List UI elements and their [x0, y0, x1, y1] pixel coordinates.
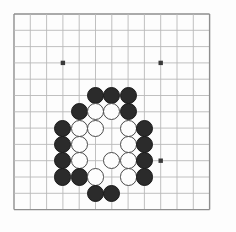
white-stone[interactable]	[120, 136, 137, 153]
star-point-icon	[61, 61, 65, 65]
white-stone[interactable]	[71, 136, 88, 153]
go-board-container[interactable]	[0, 0, 236, 232]
black-stone[interactable]	[136, 120, 153, 137]
black-stone[interactable]	[136, 168, 153, 185]
black-stone[interactable]	[71, 168, 88, 185]
black-stone[interactable]	[87, 185, 104, 202]
white-stone[interactable]	[120, 168, 137, 185]
black-stone[interactable]	[87, 87, 104, 104]
white-stone[interactable]	[87, 120, 104, 137]
star-point-icon	[159, 159, 163, 163]
black-stone[interactable]	[120, 103, 137, 120]
white-stone[interactable]	[71, 152, 88, 169]
black-stone[interactable]	[71, 103, 88, 120]
black-stone[interactable]	[120, 87, 137, 104]
star-point-icon	[159, 61, 163, 65]
white-stone[interactable]	[87, 168, 104, 185]
white-stone[interactable]	[120, 120, 137, 137]
black-stone[interactable]	[136, 136, 153, 153]
white-stone[interactable]	[120, 152, 137, 169]
black-stone[interactable]	[54, 168, 71, 185]
white-stone[interactable]	[71, 120, 88, 137]
